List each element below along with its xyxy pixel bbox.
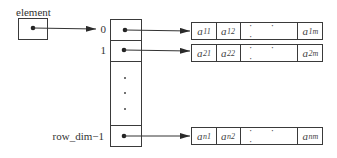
arrow-row-0 [125, 30, 190, 31]
arrow-row-1 [124, 50, 190, 51]
pointer-arrows [0, 0, 337, 158]
arrow-element-to-array [33, 28, 96, 29]
